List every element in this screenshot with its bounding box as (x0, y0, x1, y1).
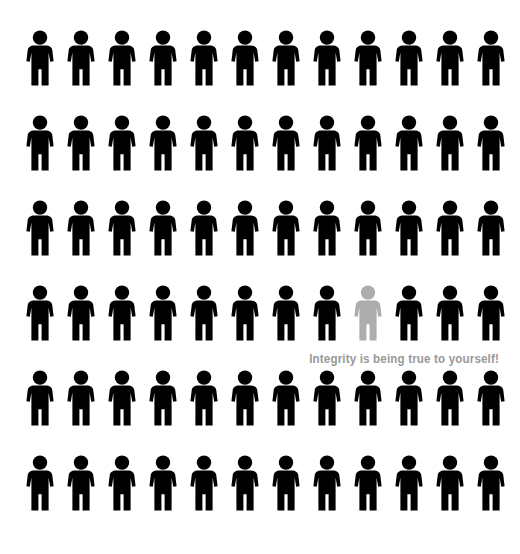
person-figure-icon (25, 370, 55, 426)
person-figure-icon (25, 115, 55, 171)
person-figure-icon (189, 285, 219, 341)
person-figure-icon (394, 30, 424, 86)
person-figure-icon (394, 370, 424, 426)
person-figure-icon (148, 200, 178, 256)
person-figure-icon (107, 285, 137, 341)
person-figure-icon (271, 30, 301, 86)
caption-text: Integrity is being true to yourself! (35, 352, 499, 366)
person-figure-icon (312, 285, 342, 341)
person-figure-icon (66, 455, 96, 511)
person-figure-icon (148, 115, 178, 171)
person-figure-icon (189, 115, 219, 171)
person-figure-icon (107, 30, 137, 86)
pictogram-canvas: Integrity is being true to yourself! (0, 0, 520, 554)
person-figure-icon (353, 455, 383, 511)
person-figure-icon (148, 285, 178, 341)
person-figure-icon (230, 455, 260, 511)
person-figure-icon (394, 455, 424, 511)
person-figure-icon (353, 200, 383, 256)
person-figure-icon (312, 370, 342, 426)
person-figure-icon (435, 30, 465, 86)
person-figure-icon (312, 200, 342, 256)
person-figure-icon (435, 285, 465, 341)
person-figure-icon (353, 370, 383, 426)
person-figure-icon (394, 115, 424, 171)
people-row (0, 30, 520, 86)
person-figure-icon (66, 115, 96, 171)
person-figure-icon (25, 200, 55, 256)
person-figure-icon (66, 285, 96, 341)
person-figure-icon (189, 370, 219, 426)
person-figure-icon (230, 200, 260, 256)
person-figure-icon (271, 285, 301, 341)
person-figure-icon (25, 455, 55, 511)
people-row (0, 455, 520, 511)
person-figure-icon (353, 115, 383, 171)
person-figure-icon (66, 200, 96, 256)
person-figure-icon (435, 455, 465, 511)
person-figure-icon (271, 200, 301, 256)
person-figure-icon (271, 370, 301, 426)
person-figure-icon (353, 30, 383, 86)
person-figure-icon (476, 455, 506, 511)
person-figure-icon-highlighted (353, 285, 383, 341)
person-figure-icon (476, 30, 506, 86)
person-figure-icon (148, 455, 178, 511)
person-figure-icon (230, 30, 260, 86)
person-figure-icon (312, 115, 342, 171)
person-figure-icon (230, 370, 260, 426)
people-row (0, 370, 520, 426)
person-figure-icon (189, 200, 219, 256)
person-figure-icon (476, 115, 506, 171)
person-figure-icon (148, 370, 178, 426)
person-figure-icon (435, 115, 465, 171)
person-figure-icon (476, 200, 506, 256)
person-figure-icon (107, 200, 137, 256)
person-figure-icon (66, 30, 96, 86)
person-figure-icon (394, 200, 424, 256)
person-figure-icon (66, 370, 96, 426)
person-figure-icon (476, 370, 506, 426)
person-figure-icon (107, 115, 137, 171)
people-row (0, 115, 520, 171)
person-figure-icon (312, 455, 342, 511)
person-figure-icon (148, 30, 178, 86)
person-figure-icon (435, 200, 465, 256)
person-figure-icon (312, 30, 342, 86)
person-figure-icon (189, 30, 219, 86)
person-figure-icon (271, 455, 301, 511)
person-figure-icon (107, 455, 137, 511)
person-figure-icon (394, 285, 424, 341)
people-row (0, 285, 520, 341)
people-grid (0, 0, 520, 554)
person-figure-icon (230, 115, 260, 171)
person-figure-icon (25, 30, 55, 86)
person-figure-icon (189, 455, 219, 511)
person-figure-icon (107, 370, 137, 426)
person-figure-icon (271, 115, 301, 171)
people-row (0, 200, 520, 256)
person-figure-icon (435, 370, 465, 426)
person-figure-icon (230, 285, 260, 341)
person-figure-icon (476, 285, 506, 341)
person-figure-icon (25, 285, 55, 341)
